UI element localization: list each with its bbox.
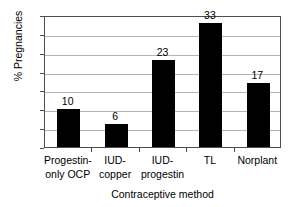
- bar-value-label: 23: [143, 46, 183, 59]
- bar-value-label: 10: [48, 95, 88, 108]
- x-tick-mark: [139, 148, 140, 152]
- y-tick-mark: [40, 148, 44, 149]
- gridline: [45, 36, 280, 37]
- bar: [105, 124, 128, 147]
- x-tick-mark: [91, 148, 92, 152]
- x-category-label-line: copper: [91, 167, 138, 181]
- x-category-label-line: Progestin-: [44, 153, 91, 167]
- bar: [247, 83, 270, 147]
- x-axis-title: Contraceptive method: [44, 187, 281, 202]
- bar-chart: % Pregnancies 05101520253035 106233317 P…: [0, 0, 294, 207]
- plot-area: [44, 16, 281, 148]
- bar-value-label: 6: [95, 110, 135, 123]
- x-category-label: IUD-copper: [91, 153, 138, 183]
- x-category-label-line: only OCP: [44, 167, 91, 181]
- x-category-label-line: IUD-: [91, 153, 138, 167]
- x-category-label: Norplant: [234, 153, 281, 183]
- x-tick-mark: [234, 148, 235, 152]
- x-category-label-line: Norplant: [234, 153, 281, 167]
- x-category-label-line: IUD-: [139, 153, 186, 167]
- bar-value-label: 33: [190, 9, 230, 22]
- x-category-label-line: TL: [186, 153, 233, 167]
- x-category-label: IUD-progestin: [139, 153, 186, 183]
- bar: [152, 60, 175, 147]
- bar: [199, 23, 222, 147]
- bar: [57, 109, 80, 147]
- x-tick-mark: [186, 148, 187, 152]
- x-category-label: TL: [186, 153, 233, 183]
- x-category-label-line: progestin: [139, 167, 186, 181]
- y-axis-title: % Pregnancies: [10, 0, 26, 111]
- bar-value-label: 17: [237, 69, 277, 82]
- x-category-label: Progestin-only OCP: [44, 153, 91, 183]
